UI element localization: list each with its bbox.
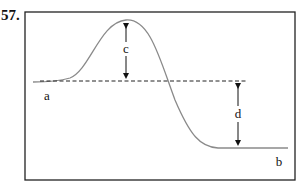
frame [25, 12, 295, 180]
label-c: c [123, 41, 129, 56]
label-b: b [276, 154, 283, 169]
label-a: a [44, 88, 50, 103]
label-d: d [235, 106, 242, 121]
energy-curve [33, 20, 288, 148]
energy-diagram: c d a b [0, 0, 305, 186]
